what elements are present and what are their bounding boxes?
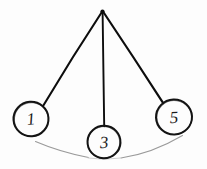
string-left [43, 12, 102, 106]
bob-middle[interactable]: 3 [86, 125, 122, 160]
string-right [103, 12, 163, 104]
bob-right-label: 5 [169, 108, 178, 127]
bob-middle-label: 3 [98, 133, 109, 153]
string-middle [103, 12, 105, 127]
bob-left-label: 1 [26, 109, 36, 129]
pendulum-strings [43, 9, 163, 126]
diagram-canvas: 1 3 5 [0, 0, 207, 169]
bob-right[interactable]: 5 [155, 98, 194, 137]
pivot-point-dot [100, 9, 104, 13]
swing-path-arc-right [121, 136, 183, 159]
pendulum-diagram: 1 3 5 [0, 0, 207, 169]
swing-path-arc-left [36, 142, 89, 158]
swing-arc-group [36, 136, 183, 160]
bob-left[interactable]: 1 [12, 101, 50, 138]
